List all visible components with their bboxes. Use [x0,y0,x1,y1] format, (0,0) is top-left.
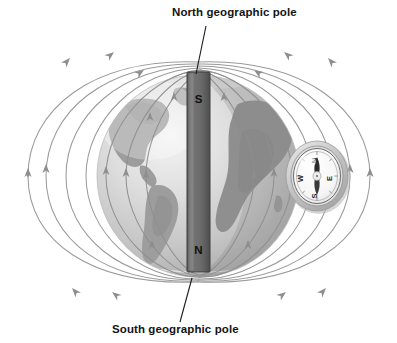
magnet-pole-s-label: S [195,93,203,105]
compass-pivot-center [316,175,318,177]
figure-canvas: S N N E S W [0,0,397,343]
compass-label-east: E [325,176,334,181]
compass-label-west: W [296,174,305,182]
bar-magnet: S N [187,72,210,272]
compass-glass-glare [300,156,316,168]
bar-magnet-highlight [189,74,194,271]
compass-label-south: S [310,193,319,198]
north-pole-label: North geographic pole [172,6,297,18]
magnetic-field-diagram: S N N E S W [0,0,397,343]
magnet-pole-n-label: N [194,244,202,256]
south-pole-label: South geographic pole [112,323,239,335]
